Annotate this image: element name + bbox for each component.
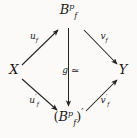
edge-label-uf-prime: u′f: [21, 96, 47, 105]
node-right-base: Y: [119, 62, 128, 77]
edge-vf-subscript: f: [106, 37, 108, 43]
edge-label-vf: vf: [92, 32, 116, 41]
node-bottom-superscript: p: [68, 109, 73, 118]
node-label-bfp: Bpf: [0, 3, 137, 16]
node-top-subscript: f: [74, 11, 77, 20]
commutative-diagram: Bpf X Y (Bpf)′ uf vf u′f v′f g ≃: [0, 0, 137, 138]
edge-uf-prime-subscript: f: [37, 101, 39, 107]
edge-label-uf: uf: [22, 32, 46, 41]
edge-label-vf-prime: v′f: [92, 96, 118, 105]
node-label-bfp-prime: (Bpf)′: [0, 110, 137, 123]
edge-g-base: g: [62, 65, 68, 75]
node-label-x: X: [0, 63, 28, 76]
node-top-base: B: [60, 2, 70, 17]
node-top-superscript: p: [69, 2, 74, 11]
node-bottom-base: B: [58, 109, 68, 124]
edge-uf-subscript: f: [36, 37, 38, 43]
node-label-y: Y: [109, 63, 137, 76]
isomorphism-symbol: ≃: [71, 66, 87, 76]
edge-vf-prime-subscript: f: [107, 101, 109, 107]
arrow-x-to-bfp-prime: [22, 79, 57, 110]
node-left-base: X: [9, 62, 18, 77]
node-bottom-prime: ′: [81, 107, 83, 118]
edge-uf-prime-mark: ′: [35, 92, 37, 101]
edge-vf-prime-mark: ′: [106, 92, 108, 101]
iso-glyph: ≃: [71, 65, 79, 76]
edge-label-g: g: [54, 66, 68, 75]
